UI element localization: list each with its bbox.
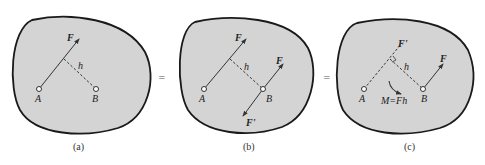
force-b-label: F — [439, 53, 447, 64]
rigid-body-c — [337, 19, 474, 133]
force-label: F — [66, 32, 74, 43]
panel-b: F h A B F F' (b) — [180, 18, 314, 153]
ghost-force-label: F' — [397, 38, 408, 49]
force-b-prime-label: F' — [245, 117, 256, 128]
distance-label: h — [78, 60, 83, 71]
point-a-marker — [362, 87, 367, 92]
force-a-label: F — [234, 32, 242, 43]
distance-label: h — [244, 61, 249, 72]
panel-c: F' h A B F M=Fh (c) — [337, 19, 474, 153]
force-couple-diagram: F h A B (a) = F h A B F F' (b) = F' h A — [0, 0, 485, 165]
point-b-marker — [421, 87, 426, 92]
caption-a: (a) — [73, 141, 84, 153]
caption-c: (c) — [404, 141, 415, 153]
equals-sign-1: = — [158, 72, 166, 82]
point-b-label: B — [92, 93, 98, 104]
distance-label: h — [404, 61, 409, 72]
point-a-label: A — [34, 93, 42, 104]
point-b-label: B — [266, 93, 272, 104]
force-b-label: F — [275, 55, 283, 66]
point-b-marker — [261, 87, 266, 92]
equals-sign-2: = — [323, 72, 331, 82]
point-a-marker — [202, 87, 207, 92]
panel-a: F h A B (a) — [13, 17, 151, 153]
point-a-label: A — [198, 93, 206, 104]
moment-label: M=Fh — [380, 95, 407, 106]
caption-b: (b) — [243, 141, 255, 153]
point-b-marker — [94, 87, 99, 92]
point-a-marker — [37, 87, 42, 92]
point-b-label: B — [421, 93, 427, 104]
rigid-body-b — [180, 18, 314, 133]
point-a-label: A — [358, 93, 366, 104]
